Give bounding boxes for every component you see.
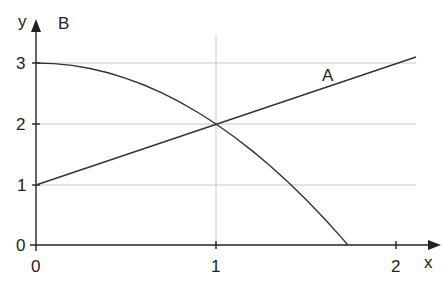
x-tick-label-0: 0	[31, 257, 40, 276]
y-tick-label-3: 3	[16, 54, 25, 73]
curve-b-line	[36, 63, 348, 245]
curve-a-label: A	[322, 66, 334, 85]
y-tick-label-0: 0	[16, 236, 25, 255]
curve-b-parabola	[36, 63, 216, 124]
axes	[30, 28, 432, 251]
function-graph: y x B A 3 2 1 0 0 1 2	[0, 0, 443, 285]
y-tick-label-2: 2	[16, 115, 25, 134]
x-tick-label-2: 2	[391, 257, 400, 276]
y-tick-label-1: 1	[17, 176, 26, 195]
x-axis-label: x	[424, 253, 433, 272]
y-axis-label: y	[18, 12, 27, 31]
x-tick-label-1: 1	[211, 257, 220, 276]
curve-a-line	[36, 57, 416, 185]
grid	[36, 35, 416, 245]
curve-b-label: B	[58, 14, 69, 33]
x-axis-arrow-icon	[428, 240, 441, 250]
y-axis-arrow-icon	[31, 19, 41, 32]
curve-b	[36, 63, 348, 245]
